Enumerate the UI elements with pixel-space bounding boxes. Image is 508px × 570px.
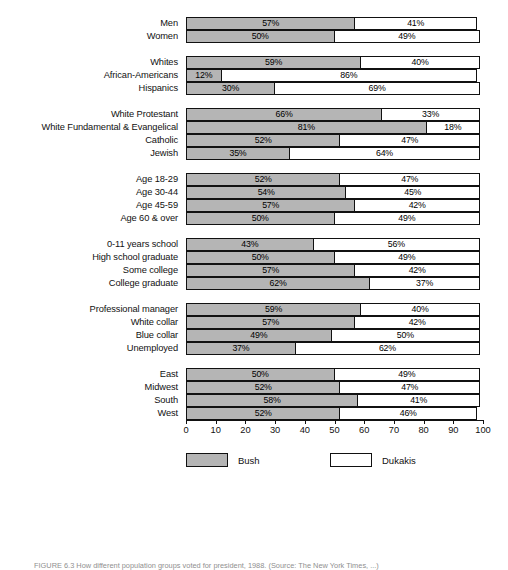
- bar-segment-dukakis: 42%: [355, 199, 480, 212]
- bar-value-label-dukakis: 49%: [398, 214, 415, 223]
- bar-segment-bush: 35%: [186, 147, 290, 160]
- bar-value-label-bush: 57%: [262, 19, 279, 28]
- bar-value-label-bush: 57%: [262, 318, 279, 327]
- bar-segment-bush: 50%: [186, 212, 335, 225]
- row-category-label: Jewish: [0, 147, 183, 160]
- row-category-label: Catholic: [0, 134, 183, 147]
- row-category-label: Men: [0, 17, 183, 30]
- bar-segment-bush: 58%: [186, 394, 358, 407]
- row-category-label: African-Americans: [0, 69, 183, 82]
- bar-value-label-bush: 50%: [252, 32, 269, 41]
- chart-row: White collar57%42%: [0, 316, 508, 329]
- bar-segment-dukakis: 37%: [370, 277, 480, 290]
- bar-value-label-bush: 58%: [264, 396, 281, 405]
- axis-tick: [483, 420, 484, 424]
- chart-row: Hispanics30%69%: [0, 82, 508, 95]
- row-category-label: High school graduate: [0, 251, 183, 264]
- axis-tick: [364, 420, 365, 424]
- row-bar-area: 37%62%: [183, 342, 508, 355]
- bar-segment-bush: 50%: [186, 30, 335, 43]
- bar-segment-dukakis: 50%: [332, 329, 481, 342]
- group-spacer: [0, 290, 508, 303]
- bar-segment-bush: 57%: [186, 316, 355, 329]
- row-bar-area: 35%64%: [183, 147, 508, 160]
- row-category-label: East: [0, 368, 183, 381]
- bar-segment-bush: 54%: [186, 186, 346, 199]
- axis-tick: [216, 420, 217, 424]
- chart-row: White Protestant66%33%: [0, 108, 508, 121]
- bar-value-label-bush: 35%: [229, 149, 246, 158]
- group-spacer: [0, 225, 508, 238]
- chart-row: High school graduate50%49%: [0, 251, 508, 264]
- row-bar-area: 50%49%: [183, 251, 508, 264]
- row-category-label: Age 45-59: [0, 199, 183, 212]
- axis-tick-label: 80: [418, 425, 428, 436]
- chart-row: Age 45-5957%42%: [0, 199, 508, 212]
- bar-segment-bush: 43%: [186, 238, 314, 251]
- chart-row: Jewish35%64%: [0, 147, 508, 160]
- bar-segment-dukakis: 56%: [314, 238, 480, 251]
- x-axis: 0102030405060708090100: [0, 420, 508, 442]
- bar-value-label-bush: 52%: [255, 409, 272, 418]
- row-bar-area: 54%45%: [183, 186, 508, 199]
- row-bar-area: 57%42%: [183, 264, 508, 277]
- bar-value-label-bush: 49%: [250, 331, 267, 340]
- axis-tick-label: 60: [359, 425, 369, 436]
- bar-value-label-bush: 59%: [265, 305, 282, 314]
- row-bar-area: 81%18%: [183, 121, 508, 134]
- chart-row: Age 30-4454%45%: [0, 186, 508, 199]
- chart-row: College graduate62%37%: [0, 277, 508, 290]
- bar-value-label-dukakis: 46%: [400, 409, 417, 418]
- chart-row: 0-11 years school43%56%: [0, 238, 508, 251]
- bar-segment-bush: 59%: [186, 303, 361, 316]
- bar-value-label-dukakis: 37%: [416, 279, 433, 288]
- row-category-label: Women: [0, 30, 183, 43]
- bar-segment-dukakis: 40%: [361, 303, 480, 316]
- row-bar-area: 62%37%: [183, 277, 508, 290]
- group-spacer: [0, 43, 508, 56]
- bar-segment-bush: 30%: [186, 82, 275, 95]
- bar-value-label-bush: 12%: [195, 71, 212, 80]
- row-bar-area: 57%42%: [183, 199, 508, 212]
- bar-segment-bush: 37%: [186, 342, 296, 355]
- row-category-label: 0-11 years school: [0, 238, 183, 251]
- bar-value-label-bush: 30%: [222, 84, 239, 93]
- chart-row: Professional manager59%40%: [0, 303, 508, 316]
- bar-segment-bush: 50%: [186, 368, 335, 381]
- chart-legend: BushDukakis: [0, 452, 508, 472]
- group-spacer: [0, 160, 508, 173]
- bar-segment-dukakis: 49%: [335, 251, 481, 264]
- legend-item: Bush: [186, 452, 260, 468]
- axis-tick: [275, 420, 276, 424]
- bar-value-label-bush: 52%: [255, 175, 272, 184]
- bar-value-label-dukakis: 42%: [409, 201, 426, 210]
- axis-tick: [186, 420, 187, 424]
- bar-value-label-dukakis: 42%: [409, 266, 426, 275]
- chart-row: East50%49%: [0, 368, 508, 381]
- bar-value-label-bush: 52%: [255, 383, 272, 392]
- bar-segment-bush: 52%: [186, 381, 340, 394]
- bar-segment-bush: 59%: [186, 56, 361, 69]
- bar-value-label-bush: 37%: [232, 344, 249, 353]
- chart-row: Unemployed37%62%: [0, 342, 508, 355]
- bar-value-label-dukakis: 18%: [444, 123, 461, 132]
- bar-value-label-dukakis: 47%: [401, 136, 418, 145]
- bar-segment-bush: 81%: [186, 121, 427, 134]
- axis-tick-label: 100: [475, 425, 491, 436]
- bar-value-label-dukakis: 50%: [397, 331, 414, 340]
- row-bar-area: 57%42%: [183, 316, 508, 329]
- bar-value-label-bush: 54%: [258, 188, 275, 197]
- bar-segment-dukakis: 69%: [275, 82, 480, 95]
- row-bar-area: 50%49%: [183, 30, 508, 43]
- bar-value-label-dukakis: 41%: [410, 396, 427, 405]
- row-bar-area: 52%47%: [183, 381, 508, 394]
- legend-item: Dukakis: [330, 452, 416, 468]
- bar-segment-dukakis: 33%: [382, 108, 480, 121]
- row-bar-area: 50%49%: [183, 212, 508, 225]
- bar-value-label-dukakis: 49%: [398, 370, 415, 379]
- row-bar-area: 57%41%: [183, 17, 508, 30]
- axis-tick-label: 90: [448, 425, 458, 436]
- bar-segment-bush: 62%: [186, 277, 370, 290]
- row-bar-area: 59%40%: [183, 303, 508, 316]
- bar-segment-dukakis: 49%: [335, 368, 481, 381]
